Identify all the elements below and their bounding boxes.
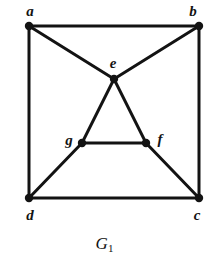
edge-g-d [29,143,82,198]
caption-main: G [96,234,108,253]
vertex-a [25,22,33,30]
edge-layer [29,26,199,198]
vertex-label-d: d [26,208,34,223]
vertex-b [195,22,203,30]
graph-drawing [0,0,209,270]
vertex-label-e: e [110,56,117,71]
edge-e-f [114,79,146,143]
vertex-e [110,75,118,83]
edge-b-e [114,26,199,79]
vertex-g [78,139,86,147]
edge-e-g [82,79,114,143]
graph-figure: a b c d e f g G1 [0,0,209,270]
vertex-c [195,194,203,202]
figure-caption: G1 [0,234,209,254]
edge-f-c [146,143,199,198]
vertex-d [25,194,33,202]
vertex-label-f: f [158,132,163,147]
vertex-label-g: g [65,133,73,148]
vertex-label-b: b [189,4,197,19]
vertex-label-a: a [26,4,34,19]
vertex-f [142,139,150,147]
edge-a-e [29,26,114,79]
caption-subscript: 1 [108,242,114,254]
vertex-label-c: c [194,208,201,223]
